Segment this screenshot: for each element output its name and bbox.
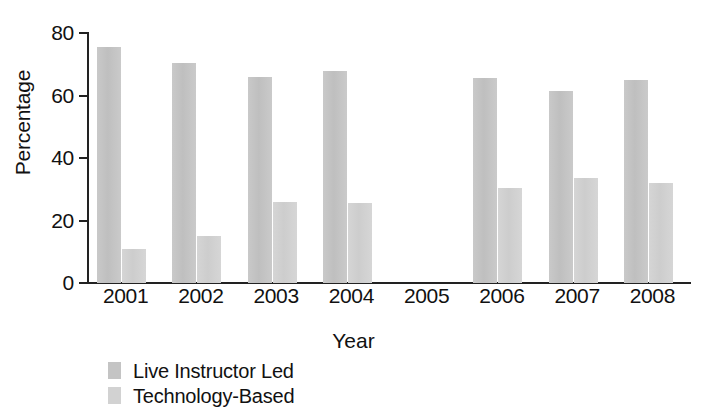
y-axis-title: Percentage <box>12 23 33 223</box>
bar <box>122 249 146 283</box>
y-axis-tick-label: 20 <box>30 210 74 231</box>
x-axis-tick-label: 2003 <box>239 285 314 306</box>
bar <box>473 78 497 283</box>
x-axis-tick-label: 2001 <box>88 285 163 306</box>
y-axis-tick-label-wrap: 0 <box>0 272 74 293</box>
legend-item: Live Instructor Led <box>108 358 294 383</box>
bar-chart-figure: 020406080 Percentage Year 20012002200320… <box>0 0 707 410</box>
bar <box>624 80 648 283</box>
bar-group: 2007 <box>540 33 615 283</box>
bar-group: 2004 <box>314 33 389 283</box>
x-axis-tick-label: 2002 <box>163 285 238 306</box>
bar <box>649 183 673 283</box>
y-axis-tick <box>79 220 88 222</box>
bar <box>97 47 121 283</box>
y-axis-tick <box>79 157 88 159</box>
bar <box>549 91 573 283</box>
bar <box>172 63 196 283</box>
x-axis-tick-label: 2004 <box>314 285 389 306</box>
bar <box>248 77 272 283</box>
bar-group: 2002 <box>163 33 238 283</box>
y-axis-tick <box>79 282 88 284</box>
bar <box>348 203 372 283</box>
y-axis-tick-label: 60 <box>30 85 74 106</box>
legend-swatch-icon <box>108 362 121 379</box>
chart-legend: Live Instructor LedTechnology-Based <box>108 358 294 408</box>
bar <box>273 202 297 283</box>
plot-area: 20012002200320042005200620072008 <box>88 33 690 283</box>
legend-label: Technology-Based <box>133 386 294 406</box>
y-axis-tick <box>79 95 88 97</box>
bar <box>323 71 347 284</box>
x-axis-tick-label: 2006 <box>464 285 539 306</box>
bar <box>574 178 598 283</box>
bar-group: 2001 <box>88 33 163 283</box>
x-axis-tick-label: 2008 <box>615 285 690 306</box>
bar-group: 2008 <box>615 33 690 283</box>
bar <box>197 236 221 283</box>
bar-group: 2006 <box>464 33 539 283</box>
legend-label: Live Instructor Led <box>133 361 294 381</box>
y-axis-tick <box>79 32 88 34</box>
legend-item: Technology-Based <box>108 383 294 408</box>
x-axis-tick-label: 2005 <box>389 285 464 306</box>
bar-group: 2005 <box>389 33 464 283</box>
x-axis-tick-label: 2007 <box>540 285 615 306</box>
y-axis-tick-label: 80 <box>30 22 74 43</box>
bar-group: 2003 <box>239 33 314 283</box>
bar <box>498 188 522 283</box>
x-axis-title: Year <box>0 330 707 351</box>
y-axis-tick-label: 0 <box>30 272 74 293</box>
legend-swatch-icon <box>108 387 121 404</box>
y-axis-tick-label: 40 <box>30 147 74 168</box>
